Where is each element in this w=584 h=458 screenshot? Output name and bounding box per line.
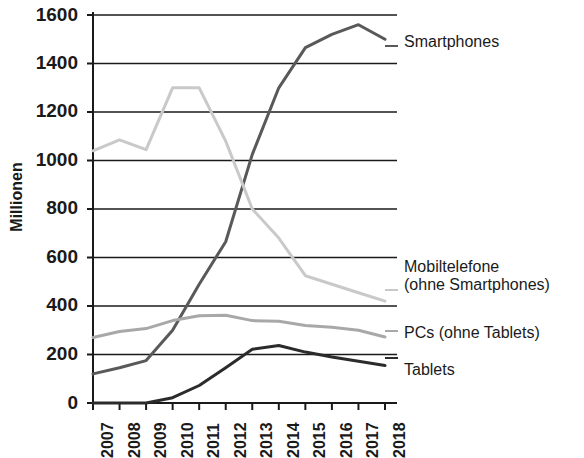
legend-label-smartphones: Smartphones (404, 33, 499, 51)
x-tick-label-2015: 2015 (311, 422, 329, 458)
gridlines (93, 15, 397, 355)
legend-label-mobiltelefone-line1: Mobiltelefone (404, 258, 550, 276)
line-chart: Millionen 1600 1400 1200 1000 800 600 40… (0, 0, 584, 458)
x-tick-label-2008: 2008 (126, 422, 144, 458)
legend-connector-lines (385, 46, 398, 358)
legend-label-pcs: PCs (ohne Tablets) (404, 324, 540, 342)
x-tick-label-2014: 2014 (285, 422, 303, 458)
x-tick-label-2018: 2018 (391, 422, 409, 458)
series-line-pcs-ohne-tablets (93, 315, 385, 337)
legend-label-mobiltelefone-group: Mobiltelefone (ohne Smartphones) (404, 258, 550, 295)
x-tick-label-2012: 2012 (232, 422, 250, 458)
x-tick-label-2017: 2017 (364, 422, 382, 458)
plot-canvas (0, 0, 584, 458)
data-series-group (93, 25, 385, 403)
x-tick-label-2007: 2007 (99, 422, 117, 458)
legend-label-mobiltelefone-line2: (ohne Smartphones) (404, 276, 550, 294)
x-tick-label-2009: 2009 (152, 422, 170, 458)
x-tick-label-2013: 2013 (258, 422, 276, 458)
series-line-smartphones (93, 25, 385, 374)
legend-label-tablets: Tablets (404, 361, 455, 379)
x-tick-label-2011: 2011 (205, 423, 223, 458)
x-tick-label-2016: 2016 (338, 422, 356, 458)
x-tick-label-2010: 2010 (179, 422, 197, 458)
